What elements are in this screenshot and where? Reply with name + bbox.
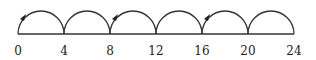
jump-arc-2	[64, 11, 110, 34]
tick-label: 20	[240, 44, 255, 58]
jump-arc-5	[202, 11, 248, 34]
tick-label: 16	[194, 44, 209, 58]
jump-arcs	[18, 11, 294, 34]
number-line-diagram: 0 4 8 12 16 20 24	[0, 0, 316, 60]
jump-arc-1	[18, 11, 64, 34]
tick-label: 4	[60, 44, 68, 58]
jump-arc-4	[156, 11, 202, 34]
tick-label: 24	[286, 44, 302, 58]
jump-arc-6	[248, 11, 294, 34]
tick-label: 0	[14, 44, 22, 58]
jump-arc-3	[110, 11, 156, 34]
tick-label: 12	[148, 44, 163, 58]
tick-label: 8	[106, 44, 114, 58]
arrowheads	[20, 14, 210, 21]
tick-labels: 0 4 8 12 16 20 24	[14, 44, 302, 58]
